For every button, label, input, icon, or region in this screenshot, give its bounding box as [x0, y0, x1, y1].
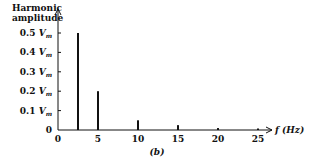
y-tick-label: 0.2 Vm [20, 86, 52, 97]
x-tick-label: 0 [55, 134, 61, 144]
y-tick-label: 0.3 Vm [20, 67, 52, 78]
y-ticks: 0.5 Vm0.4 Vm0.3 Vm0.2 Vm0.1 Vm0 [20, 28, 61, 135]
chart-caption: (b) [150, 147, 165, 157]
x-tick-label: 5 [95, 134, 101, 144]
harmonic-spectrum-chart: Harmonic amplitude f (Hz) 0.5 Vm0.4 Vm0.… [0, 0, 314, 164]
harmonic-bar [217, 128, 219, 130]
y-tick-label: 0.5 Vm [20, 28, 52, 39]
y-tick-label-zero: 0 [46, 125, 52, 135]
x-tick-label: 10 [132, 134, 145, 144]
y-tick-label: 0.4 Vm [20, 47, 52, 58]
harmonic-bar [177, 125, 179, 130]
harmonic-bar [257, 129, 259, 131]
x-tick-label: 15 [172, 134, 185, 144]
y-axis-label-line1: Harmonic [12, 3, 63, 13]
x-axis-label: f (Hz) [274, 125, 304, 135]
y-tick-label: 0.1 Vm [20, 106, 52, 117]
harmonic-bar [77, 33, 79, 130]
x-tick-label: 25 [252, 134, 265, 144]
harmonic-bar [97, 91, 99, 130]
harmonic-bar [137, 120, 139, 130]
x-ticks: 0510152025 [55, 134, 264, 144]
x-tick-label: 20 [212, 134, 225, 144]
bars [77, 33, 259, 130]
